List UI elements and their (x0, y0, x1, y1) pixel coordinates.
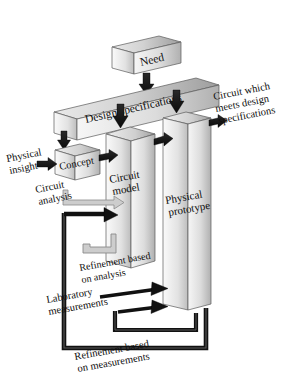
arrow-right-glyph (37, 158, 57, 171)
arrow-insight-to-concept (37, 158, 57, 171)
block-concept: Concept (55, 144, 100, 180)
block-need: Need (112, 36, 181, 74)
refinement-analysis-loop-path (83, 234, 116, 253)
measurements-inner-bracket-path (115, 311, 196, 330)
circuit-design-process-diagram: Need Design specifications (0, 0, 286, 385)
diagram-canvas: Need Design specifications (0, 0, 286, 385)
arrow-laboratory-measurements-lower (118, 300, 168, 314)
block-physical-prototype: Physical prototype (163, 112, 211, 310)
circuit-model-front-face (131, 134, 155, 268)
loop-refinement-analysis (83, 234, 116, 253)
arrow-laboratory-measurements-upper (100, 282, 168, 297)
laboratory-arrow-shaft-upper (100, 289, 158, 297)
measurements-inner-bracket-highlight (115, 311, 196, 330)
loop-measurements-inner-bracket (115, 311, 196, 330)
